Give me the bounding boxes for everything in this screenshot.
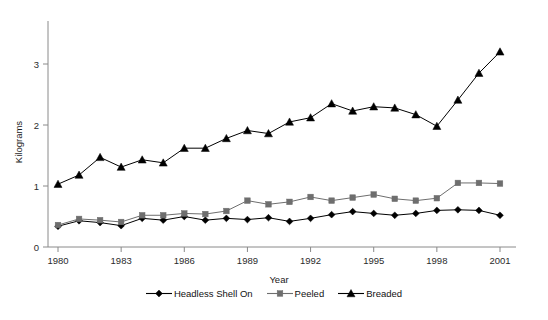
data-point-marker [412, 210, 419, 217]
data-point-marker [329, 198, 335, 204]
data-point-marker [307, 215, 314, 222]
data-point-marker [497, 212, 504, 219]
data-point-marker [370, 103, 378, 110]
data-point-marker [434, 195, 440, 201]
x-axis-tick-label: 1983 [111, 255, 132, 266]
data-point-marker [328, 211, 335, 218]
data-point-marker [413, 198, 419, 204]
data-point-marker [496, 48, 504, 55]
x-axis-tick-label: 1995 [363, 255, 384, 266]
chart-series [54, 48, 504, 230]
series-line [58, 210, 500, 226]
data-point-marker [308, 194, 314, 200]
line-chart: 012319801983198619891992199519982001Year… [0, 0, 548, 320]
series-peeled [55, 180, 503, 228]
data-point-marker [497, 181, 503, 187]
data-point-marker [392, 196, 398, 202]
y-axis-tick-label: 0 [34, 242, 39, 253]
data-point-marker [307, 114, 315, 121]
data-point-marker [76, 216, 82, 222]
triangle-marker-icon [338, 288, 364, 299]
data-point-marker [476, 207, 483, 214]
data-point-marker [96, 153, 104, 160]
data-point-marker [455, 180, 461, 186]
legend-marker [155, 290, 162, 297]
data-point-marker [244, 216, 251, 223]
data-point-marker [412, 111, 420, 118]
y-axis-tick-label: 2 [34, 120, 39, 131]
x-axis-tick-label: 1998 [426, 255, 447, 266]
data-point-marker [54, 180, 62, 187]
data-point-marker [138, 156, 146, 163]
chart-legend: Headless Shell OnPeeledBreaded [0, 288, 548, 299]
data-point-marker [286, 218, 293, 225]
data-point-marker [117, 163, 125, 170]
data-point-marker [371, 192, 377, 198]
legend-item-breaded[interactable]: Breaded [338, 288, 402, 299]
data-point-marker [349, 208, 356, 215]
x-axis-tick-label: 2001 [489, 255, 510, 266]
data-point-marker [222, 134, 230, 141]
chart-plot-area: 012319801983198619891992199519982001Year… [0, 0, 548, 320]
data-point-marker [265, 214, 272, 221]
data-point-marker [55, 222, 61, 228]
data-point-marker [118, 219, 124, 225]
data-point-marker [328, 100, 336, 107]
chart-axes [43, 21, 516, 252]
x-axis-tick-label: 1980 [47, 255, 68, 266]
legend-item-label: Headless Shell On [174, 288, 253, 299]
data-point-marker [243, 126, 251, 133]
data-point-marker [203, 211, 209, 217]
legend-item-peeled[interactable]: Peeled [267, 288, 325, 299]
data-point-marker [245, 198, 251, 204]
series-headless-shell-on [55, 206, 504, 229]
chart-axis-labels: 012319801983198619891992199519982001Year… [13, 59, 511, 286]
data-point-marker [370, 210, 377, 217]
data-point-marker [266, 202, 272, 208]
square-marker-icon [267, 288, 293, 299]
data-point-marker [433, 207, 440, 214]
legend-item-label: Breaded [366, 288, 402, 299]
data-point-marker [202, 217, 209, 224]
data-point-marker [224, 208, 230, 214]
x-axis-tick-label: 1986 [174, 255, 195, 266]
series-line [58, 52, 500, 184]
x-axis-title: Year [269, 274, 288, 285]
data-point-marker [391, 212, 398, 219]
legend-item-headless-shell-on[interactable]: Headless Shell On [146, 288, 253, 299]
series-line [58, 183, 500, 225]
y-axis-title: Kilograms [13, 121, 24, 163]
data-point-marker [160, 212, 166, 218]
data-point-marker [181, 211, 187, 217]
series-breaded [54, 48, 504, 188]
data-point-marker [139, 212, 145, 218]
y-axis-tick-label: 1 [34, 181, 39, 192]
legend-item-label: Peeled [295, 288, 325, 299]
data-point-marker [287, 199, 293, 205]
data-point-marker [455, 206, 462, 213]
legend-marker [277, 291, 283, 297]
data-point-marker [350, 195, 356, 201]
diamond-marker-icon [146, 288, 172, 299]
x-axis-tick-label: 1992 [300, 255, 321, 266]
data-point-marker [223, 215, 230, 222]
data-point-marker [476, 180, 482, 186]
x-axis-tick-label: 1989 [237, 255, 258, 266]
data-point-marker [97, 217, 103, 223]
y-axis-tick-label: 3 [34, 59, 39, 70]
